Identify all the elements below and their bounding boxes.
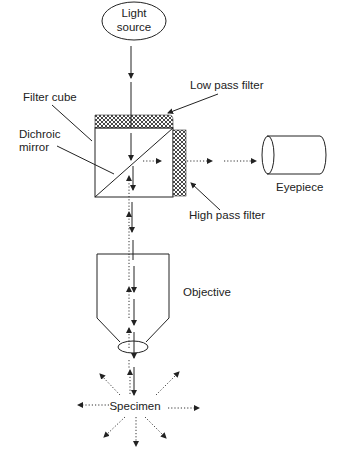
eyepiece bbox=[262, 136, 326, 174]
objective-lens bbox=[118, 341, 148, 353]
microscope-diagram: Light source Low pass filter Filter cube… bbox=[0, 0, 339, 459]
high-pass-filter bbox=[173, 130, 186, 196]
low-pass-filter-label: Low pass filter bbox=[190, 79, 264, 91]
dichroic-mirror bbox=[95, 128, 173, 197]
objective bbox=[97, 254, 169, 353]
high-pass-filter-label: High pass filter bbox=[189, 209, 265, 221]
filter-cube-label: Filter cube bbox=[23, 91, 77, 103]
dichroic-mirror-label-line2: mirror bbox=[19, 141, 49, 153]
dichroic-mirror-label-line1: Dichroic bbox=[19, 128, 61, 140]
low-pass-filter bbox=[95, 115, 173, 128]
objective-label: Objective bbox=[183, 286, 231, 298]
high-pass-filter-pointer bbox=[191, 183, 220, 210]
specimen-label: Specimen bbox=[109, 400, 160, 412]
dichroic-mirror-pointer bbox=[57, 146, 114, 174]
light-source-label-line1: Light bbox=[122, 7, 148, 19]
low-pass-filter-pointer bbox=[168, 94, 218, 113]
eyepiece-label: Eyepiece bbox=[276, 181, 323, 193]
light-source: Light source bbox=[102, 2, 166, 40]
light-source-label-line2: source bbox=[117, 21, 152, 33]
